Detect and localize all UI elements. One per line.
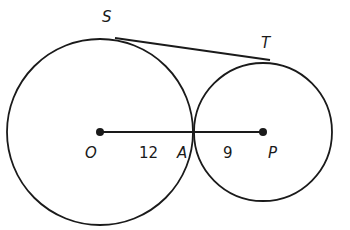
label-o: O [85,146,97,161]
label-s: S [102,10,112,25]
label-ap-length: 9 [223,146,233,161]
label-a: A [177,146,187,161]
label-oa-length: 12 [139,146,158,161]
tangent-segment-st [115,38,270,60]
point-o [96,128,104,136]
geometry-figure [0,0,350,230]
diagram-canvas: S T O 12 A 9 P [0,0,350,230]
point-p [259,128,267,136]
label-t: T [261,36,270,51]
label-p: P [268,146,277,161]
